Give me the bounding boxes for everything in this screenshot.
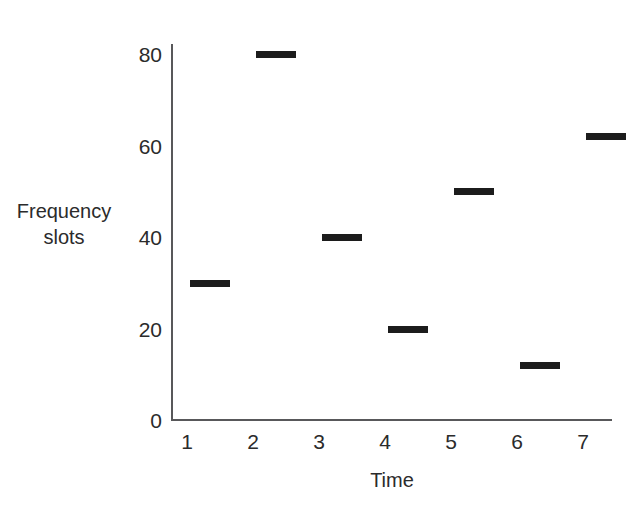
y-tick-label: 20 [120, 319, 162, 340]
frequency-slots-chart: Frequency slots Time 020406080 1234567 [0, 0, 629, 525]
data-segment [190, 280, 230, 287]
y-tick-label: 60 [120, 136, 162, 157]
data-segment [388, 326, 428, 333]
data-segment [586, 133, 626, 140]
data-segment [322, 234, 362, 241]
x-tick-label: 7 [563, 430, 603, 454]
data-segment [520, 362, 560, 369]
x-tick-label: 3 [299, 430, 339, 454]
x-tick-label: 2 [233, 430, 273, 454]
y-axis-title-line-2: slots [8, 224, 120, 250]
y-axis-line [171, 44, 173, 421]
x-tick-label: 5 [431, 430, 471, 454]
y-axis-title: Frequency slots [8, 198, 120, 250]
data-segment [454, 188, 494, 195]
y-tick-label: 40 [120, 227, 162, 248]
data-segment [256, 51, 296, 58]
x-tick-label: 4 [365, 430, 405, 454]
x-axis-title: Time [172, 468, 612, 492]
x-tick-label: 6 [497, 430, 537, 454]
x-axis-line [171, 419, 612, 421]
y-tick-label: 0 [120, 410, 162, 431]
y-axis-title-line-1: Frequency [17, 200, 112, 222]
x-tick-label: 1 [167, 430, 207, 454]
y-tick-label: 80 [120, 44, 162, 65]
